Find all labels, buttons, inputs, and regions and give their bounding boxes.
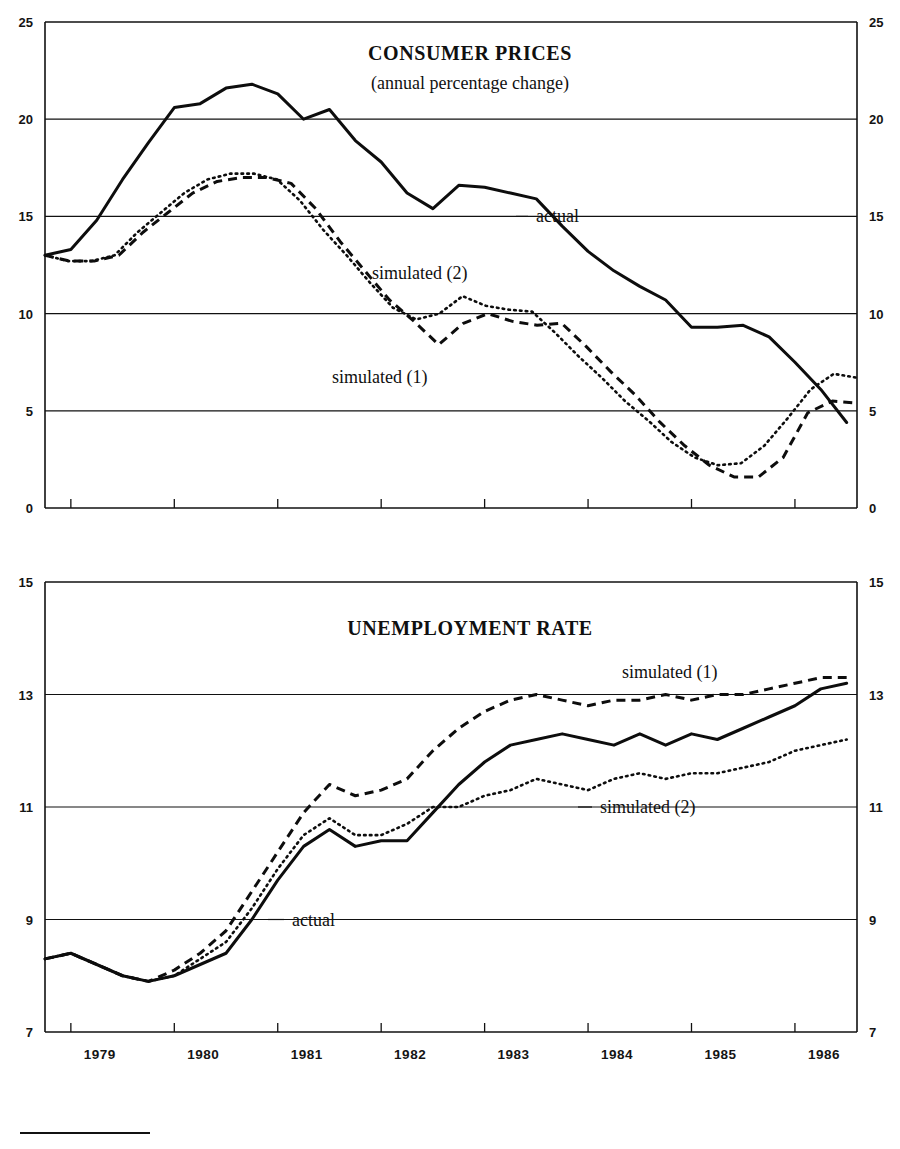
y-axis-labels-left: 0510152025 xyxy=(19,15,33,516)
y-tick-label-right-0: 0 xyxy=(869,501,876,516)
series-annotations: actualsimulated (2)simulated (1) xyxy=(332,206,579,388)
x-tick-label-1983: 1983 xyxy=(498,1047,530,1062)
series-simulated-1 xyxy=(45,678,847,982)
x-tick-label-1985: 1985 xyxy=(704,1047,736,1062)
y-tick-label-left-20: 20 xyxy=(19,112,33,127)
x-tick-label-1981: 1981 xyxy=(291,1047,323,1062)
y-tick-label-left-15: 15 xyxy=(19,575,33,590)
x-tick-label-1982: 1982 xyxy=(394,1047,426,1062)
x-axis-labels: 19791980198119821983198419851986 xyxy=(84,1047,840,1062)
series-simulated-2 xyxy=(45,740,847,982)
y-axis-labels-left: 79111315 xyxy=(19,575,33,1040)
chart-title-unemployment-rate: UNEMPLOYMENT RATE xyxy=(347,617,593,639)
footnote-rule xyxy=(20,1132,150,1134)
series-label-simulated-1: simulated (1) xyxy=(622,662,717,683)
series-simulated-2 xyxy=(45,174,857,466)
x-tick-marks xyxy=(71,1023,795,1032)
y-tick-label-right-13: 13 xyxy=(869,688,883,703)
series-label-simulated-2: simulated (2) xyxy=(600,797,695,818)
series-label-simulated-2: simulated (2) xyxy=(372,263,467,284)
series-label-actual: actual xyxy=(536,206,579,226)
y-tick-label-right-15: 15 xyxy=(869,575,883,590)
y-tick-label-left-13: 13 xyxy=(19,688,33,703)
y-tick-label-left-7: 7 xyxy=(26,1025,33,1040)
y-tick-label-left-25: 25 xyxy=(19,15,33,30)
series-group xyxy=(45,678,847,982)
series-actual xyxy=(45,84,847,422)
chart-panel-consumer-prices: 05101520250510152025CONSUMER PRICES(annu… xyxy=(0,0,900,540)
y-tick-label-right-20: 20 xyxy=(869,112,883,127)
series-annotations: simulated (1)simulated (2)actual xyxy=(268,662,717,930)
y-tick-label-left-15: 15 xyxy=(19,209,33,224)
x-tick-label-1986: 1986 xyxy=(808,1047,840,1062)
y-tick-label-right-5: 5 xyxy=(869,404,876,419)
x-tick-label-1980: 1980 xyxy=(187,1047,219,1062)
series-label-actual: actual xyxy=(292,910,335,930)
y-tick-label-right-7: 7 xyxy=(869,1025,876,1040)
consumer-prices-plot: 05101520250510152025CONSUMER PRICES(annu… xyxy=(0,0,900,540)
y-tick-label-right-9: 9 xyxy=(869,913,876,928)
y-tick-label-left-0: 0 xyxy=(26,501,33,516)
y-tick-label-left-5: 5 xyxy=(26,404,33,419)
y-axis-labels-right: 79111315 xyxy=(869,575,883,1040)
x-tick-label-1984: 1984 xyxy=(601,1047,633,1062)
y-axis-labels-right: 0510152025 xyxy=(869,15,883,516)
y-tick-label-right-11: 11 xyxy=(869,800,883,815)
y-tick-label-left-9: 9 xyxy=(26,913,33,928)
figure-page: 05101520250510152025CONSUMER PRICES(annu… xyxy=(0,0,900,1149)
series-actual xyxy=(45,683,847,981)
series-label-simulated-1: simulated (1) xyxy=(332,367,427,388)
y-tick-label-left-10: 10 xyxy=(19,307,33,322)
chart-subtitle-consumer-prices: (annual percentage change) xyxy=(371,73,569,94)
unemployment-rate-plot: 7911131579111315197919801981198219831984… xyxy=(0,560,900,1120)
chart-title-consumer-prices: CONSUMER PRICES xyxy=(368,42,572,64)
x-tick-marks xyxy=(71,499,795,508)
y-tick-label-right-10: 10 xyxy=(869,307,883,322)
y-tick-label-right-25: 25 xyxy=(869,15,883,30)
x-tick-label-1979: 1979 xyxy=(84,1047,116,1062)
y-tick-label-right-15: 15 xyxy=(869,209,883,224)
y-tick-label-left-11: 11 xyxy=(19,800,33,815)
chart-panel-unemployment-rate: 7911131579111315197919801981198219831984… xyxy=(0,560,900,1080)
